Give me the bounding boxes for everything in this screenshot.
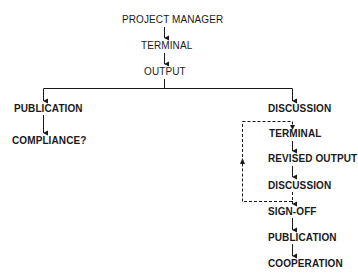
node-discussion-2: DISCUSSION <box>268 180 331 192</box>
node-publication-left: PUBLICATION <box>14 103 83 115</box>
node-publication-right: PUBLICATION <box>268 232 337 244</box>
node-project-manager: PROJECT MANAGER <box>122 14 223 26</box>
node-discussion-1: DISCUSSION <box>268 103 331 115</box>
node-sign-off: SIGN-OFF <box>268 206 317 218</box>
node-terminal-2: TERMINAL <box>269 128 321 140</box>
node-output: OUTPUT <box>144 66 186 78</box>
node-terminal: TERMINAL <box>141 40 192 52</box>
node-compliance: COMPLIANCE? <box>12 135 86 147</box>
loop-top <box>243 122 293 127</box>
node-revised-output: REVISED OUTPUT <box>268 153 357 165</box>
node-cooperation: COOPERATION <box>268 258 343 270</box>
loop-bottom <box>243 192 293 202</box>
loop-up-arrow-icon <box>240 158 245 164</box>
